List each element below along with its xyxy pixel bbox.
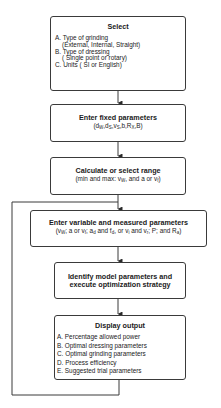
select-title: Select (51, 23, 185, 31)
fixed-parameters-box: Enter fixed parameters (dW,dS,vS,b,RX,B) (50, 104, 186, 142)
fixed-parameters-list: (dW,dS,vS,b,RX,B) (51, 122, 185, 132)
range-title: Calculate or select range (51, 167, 185, 175)
variable-parameters-box: Enter variable and measured parameters (… (30, 210, 207, 247)
range-detail: (min and max: vW, and a or vf) (51, 175, 185, 185)
output-item: D. Process efficiency (57, 359, 185, 368)
output-item: B. Optimal dressing parameters (57, 342, 185, 351)
output-item: C. Optimal grinding parameters (57, 350, 185, 359)
select-options-list: A. Type of grinding (External, Internal,… (51, 35, 185, 69)
display-output-title: Display output (55, 322, 185, 330)
optimization-box: Identify model parameters and execute op… (54, 262, 186, 299)
fixed-parameters-title: Enter fixed parameters (51, 114, 185, 122)
range-box: Calculate or select range (min and max: … (50, 157, 186, 195)
optimization-title-line2: execute optimization strategy (55, 281, 185, 289)
display-output-list: A. Percentage allowed power B. Optimal d… (55, 333, 185, 376)
display-output-box: Display output A. Percentage allowed pow… (54, 315, 186, 380)
select-box: Select A. Type of grinding (External, In… (50, 16, 186, 91)
variable-parameters-title: Enter variable and measured parameters (31, 219, 206, 227)
variable-parameters-detail: (vW; a or vf; ad and fd, or vi and vr; P… (31, 227, 206, 237)
output-item: A. Percentage allowed power (57, 333, 185, 342)
output-item: E. Suggested trial parameters (57, 367, 185, 376)
units-item: C. Units ( SI or English) (55, 62, 185, 69)
